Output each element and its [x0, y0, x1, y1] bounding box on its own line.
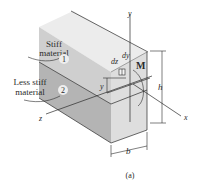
dy-label: dy — [122, 51, 130, 60]
beam-figure: Stiff material 1 Less stiff material 2 y… — [0, 0, 197, 189]
material-1-number: 1 — [62, 55, 66, 64]
less-stiff-label-line2: material — [15, 87, 45, 97]
less-stiff-label-line1: Less stiff — [13, 77, 46, 87]
material-2-number: 2 — [61, 86, 65, 95]
y-axis-label: y — [127, 9, 132, 18]
h-label: h — [158, 82, 163, 92]
x-axis-label: x — [183, 113, 188, 122]
figure-caption: (a) — [126, 171, 135, 180]
dz-label: dz — [111, 57, 119, 66]
y-offset-label: y — [99, 82, 104, 91]
composite-beam-diagram: Stiff material 1 Less stiff material 2 y… — [0, 0, 197, 189]
moment-label: M — [136, 60, 146, 71]
z-axis-label: z — [38, 114, 43, 123]
b-label: b — [126, 146, 131, 156]
